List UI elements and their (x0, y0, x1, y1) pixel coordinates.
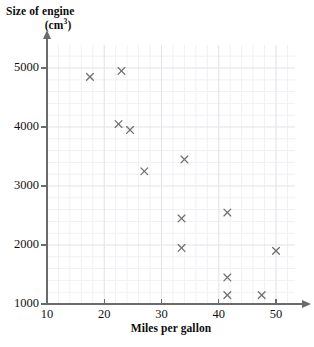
x-axis-tick (218, 299, 219, 305)
y-axis-tick (41, 67, 47, 68)
data-point (115, 121, 122, 128)
data-point (178, 215, 185, 222)
data-point (181, 156, 188, 163)
data-point (224, 209, 231, 216)
y-axis-tick (41, 126, 47, 127)
y-axis-tick-label: 3000 (0, 178, 39, 193)
x-axis-tick (161, 299, 162, 305)
y-axis-title-line1: Size of engine (6, 5, 74, 17)
x-axis-arrowhead (302, 300, 311, 308)
y-axis-units-close: ) (67, 19, 71, 31)
data-point (273, 248, 280, 255)
y-axis-title-units: (cm3) (10, 18, 106, 32)
x-axis-tick (104, 299, 105, 305)
data-point (224, 292, 231, 299)
x-axis-tick (275, 299, 276, 305)
y-axis-tick (41, 185, 47, 186)
y-axis-tick (41, 244, 47, 245)
data-point (118, 68, 125, 75)
y-axis-arrowhead (43, 30, 51, 39)
data-point (258, 292, 265, 299)
data-point (127, 127, 134, 134)
x-axis-tick-label: 10 (30, 307, 64, 322)
y-axis-tick-label: 5000 (0, 60, 39, 75)
y-axis-line (46, 38, 48, 305)
x-axis-tick-label: 20 (87, 307, 121, 322)
data-point (141, 168, 148, 175)
y-axis-tick-label: 4000 (0, 119, 39, 134)
x-axis-tick-label: 40 (202, 307, 236, 322)
plot-area (47, 45, 295, 304)
x-axis-line (47, 303, 304, 305)
data-point (224, 274, 231, 281)
data-point (178, 245, 185, 252)
y-axis-title: Size of engine (cm3) (6, 4, 106, 32)
x-axis-tick-label: 30 (145, 307, 179, 322)
x-axis-tick (46, 299, 47, 305)
x-axis-tick-label: 50 (259, 307, 293, 322)
scatter-plot-figure: Size of engine (cm3) 1000200030004000500… (0, 0, 314, 347)
y-axis-tick-label: 2000 (0, 237, 39, 252)
data-point-layer (47, 45, 295, 304)
data-point (87, 73, 94, 80)
x-axis-title: Miles per gallon (0, 322, 314, 334)
